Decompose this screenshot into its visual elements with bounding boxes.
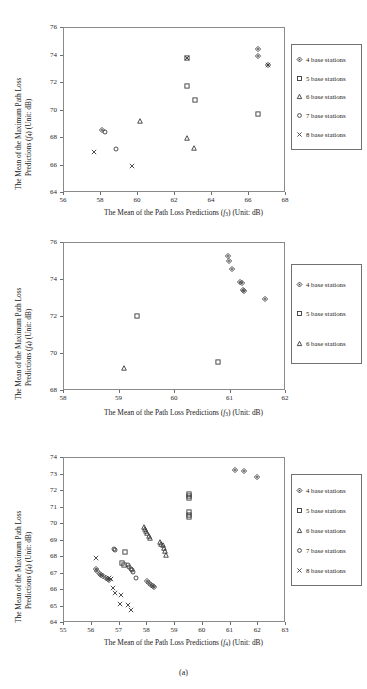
x-axis-tick [285, 390, 286, 393]
legend-marker-diamond-icon [295, 281, 303, 289]
datapoint-square [122, 549, 127, 554]
y-axis-tick [60, 622, 63, 623]
x-axis-tick-label: 59 [171, 626, 178, 634]
x-axis-tick-label: 55 [60, 626, 67, 634]
y-axis-tick [60, 390, 63, 391]
y-axis-tick-label: 74 [41, 275, 57, 283]
legend-item: 6 base stations [295, 339, 358, 347]
y-axis-tick-label: 72 [41, 312, 57, 320]
legend-item: 8 base stations [295, 566, 358, 574]
y-axis-tick-label: 66 [41, 161, 57, 169]
y-axis-tick-label: 74 [41, 51, 57, 59]
figure-scatter-panels: The Mean of the Maximum Path Loss Predic… [0, 0, 367, 689]
y-axis-tick-label: 70 [41, 106, 57, 114]
y-axis-tick-label: 72 [41, 78, 57, 86]
datapoint-cross [112, 591, 117, 596]
panel-1-datapoints [64, 28, 284, 191]
panel-2-datapoints [64, 243, 284, 389]
legend-marker-cross-icon [295, 566, 303, 574]
datapoint-diamond [263, 296, 268, 301]
legend-item-label: 5 base stations [306, 310, 346, 317]
legend-item: 5 base stations [295, 506, 358, 514]
legend-marker-square-icon [295, 310, 303, 318]
x-axis-tick [174, 622, 175, 625]
legend-item: 6 base stations [295, 93, 358, 101]
y-axis-tick-label: 66 [41, 585, 57, 593]
legend-item: 4 base stations [295, 486, 358, 494]
legend-marker-triangle-icon [295, 93, 303, 101]
datapoint-square [256, 111, 261, 116]
datapoint-diamond [256, 54, 261, 59]
x-axis-tick-label: 64 [208, 196, 215, 204]
x-axis-tick [257, 622, 258, 625]
datapoint-triangle [147, 535, 152, 540]
panel-3-datapoints [64, 458, 284, 621]
legend-item: 7 base stations [295, 546, 358, 554]
y-axis-tick [60, 556, 63, 557]
x-axis-tick-label: 58 [143, 626, 150, 634]
x-axis-tick-label: 57 [115, 626, 122, 634]
legend-item: 4 base stations [295, 55, 358, 63]
legend-item-label: 6 base stations [306, 93, 346, 100]
datapoint-cross [91, 149, 96, 154]
datapoint-square [216, 360, 221, 365]
panel-1-x-axis-title: The Mean of the Path Loss Predictions (f… [0, 208, 367, 217]
y-axis-tick [60, 316, 63, 317]
x-axis-tick-label: 60 [198, 626, 205, 634]
legend-item: 4 base stations [295, 281, 358, 289]
legend-item-label: 7 base stations [306, 112, 346, 119]
legend-marker-square-icon [295, 74, 303, 82]
y-axis-tick-label: 69 [41, 536, 57, 544]
x-axis-tick [63, 192, 64, 195]
y-axis-tick [60, 523, 63, 524]
datapoint-circle [113, 146, 118, 151]
panel-3-x-axis-title: The Mean of the Path Loss Predictions (f… [0, 638, 367, 647]
legend-item-label: 8 base stations [306, 131, 346, 138]
x-axis-tick [63, 622, 64, 625]
y-axis-tick [60, 353, 63, 354]
y-axis-tick-label: 68 [41, 133, 57, 141]
y-axis-tick-label: 68 [41, 386, 57, 394]
legend-item: 5 base stations [295, 310, 358, 318]
y-axis-tick [60, 242, 63, 243]
y-axis-tick-label: 71 [41, 503, 57, 511]
datapoint-circle [131, 569, 136, 574]
x-axis-tick [230, 622, 231, 625]
datapoint-circle [102, 129, 107, 134]
x-axis-tick-label: 60 [134, 196, 141, 204]
x-axis-tick-label: 66 [245, 196, 252, 204]
datapoint-square [193, 97, 198, 102]
x-axis-tick-label: 63 [282, 626, 289, 634]
x-axis-tick [248, 192, 249, 195]
legend-marker-diamond-icon [295, 55, 303, 63]
datapoint-diamond [152, 584, 157, 589]
datapoint-diamond [254, 474, 259, 479]
y-axis-tick [60, 606, 63, 607]
datapoint-triangle [121, 365, 126, 370]
y-axis-tick-label: 68 [41, 552, 57, 560]
x-axis-tick-label: 56 [60, 196, 67, 204]
x-axis-tick-label: 62 [171, 196, 178, 204]
y-axis-tick [60, 55, 63, 56]
x-axis-tick-label: 61 [226, 626, 233, 634]
x-axis-tick [137, 192, 138, 195]
legend-item-label: 4 base stations [306, 56, 346, 63]
datapoint-diamond [226, 258, 231, 263]
x-axis-tick-label: 56 [87, 626, 94, 634]
x-axis-tick-label: 61 [226, 394, 233, 402]
y-axis-tick [60, 573, 63, 574]
y-axis-tick-label: 72 [41, 486, 57, 494]
x-axis-tick-label: 58 [60, 394, 67, 402]
panel-1-plot-area [63, 27, 285, 192]
legend-marker-square-icon [295, 506, 303, 514]
y-axis-tick-label: 74 [41, 453, 57, 461]
legend-marker-circle-icon [295, 112, 303, 120]
panel-3-y-axis-title-line2: Predictions (f4) (Unit: dB) [24, 532, 33, 609]
legend-marker-circle-icon [295, 546, 303, 554]
datapoint-circle [113, 548, 118, 553]
y-axis-tick [60, 490, 63, 491]
y-axis-tick [60, 110, 63, 111]
x-axis-tick [202, 622, 203, 625]
x-axis-tick [211, 192, 212, 195]
x-axis-tick-label: 68 [282, 196, 289, 204]
